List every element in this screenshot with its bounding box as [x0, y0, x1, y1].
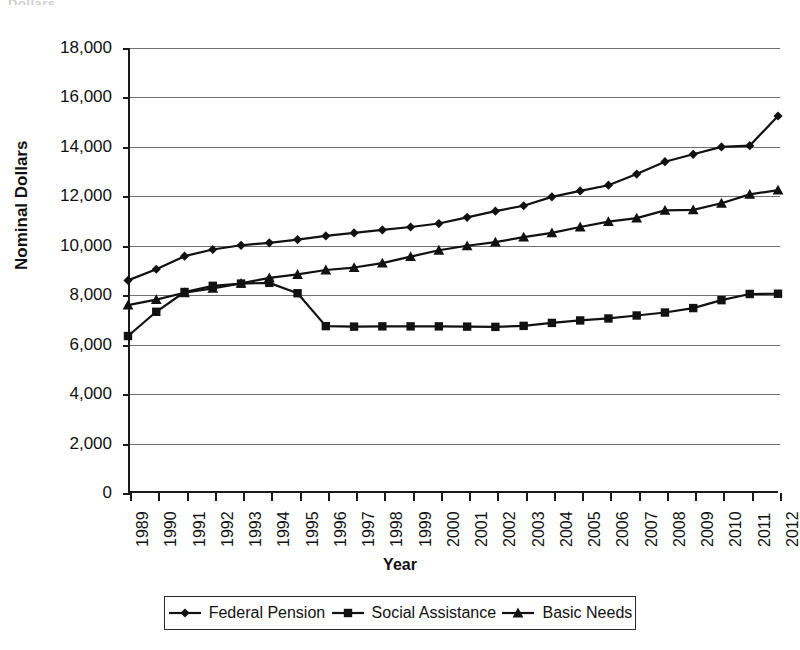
y-gridline — [130, 196, 780, 197]
x-axis-tick — [413, 493, 415, 501]
x-axis-tick — [158, 493, 160, 501]
x-axis-tick-label: 2004 — [558, 511, 576, 547]
y-axis-tick-label: 8,000 — [0, 285, 112, 305]
x-axis-tick — [695, 493, 697, 501]
x-axis-tick — [300, 493, 302, 501]
chart-page: Dollars Nominal Dollars Year Federal Pen… — [0, 0, 800, 650]
x-axis-tick — [582, 493, 584, 501]
x-axis-tick-label: 2009 — [699, 511, 717, 547]
x-axis-tick-label: 2007 — [643, 511, 661, 547]
x-axis-tick-label: 1994 — [275, 511, 293, 547]
x-axis-tick — [469, 493, 471, 501]
plot-area — [128, 48, 778, 493]
x-axis-tick-label: 1997 — [360, 511, 378, 547]
x-axis-tick — [639, 493, 641, 501]
y-axis-tick-label: 14,000 — [0, 137, 112, 157]
x-axis-tick-label: 1989 — [134, 511, 152, 547]
y-axis-tick-label: 10,000 — [0, 236, 112, 256]
y-gridline — [130, 147, 780, 148]
y-axis-tick — [123, 97, 130, 99]
x-axis-tick-label: 2001 — [473, 511, 491, 547]
legend-label: Federal Pension — [209, 604, 326, 622]
legend-key-diamond-icon — [168, 606, 202, 620]
y-axis-tick-label: 18,000 — [0, 38, 112, 58]
square-marker — [343, 609, 351, 617]
y-gridline — [130, 48, 780, 49]
legend-label: Basic Needs — [542, 604, 632, 622]
legend-key-square-icon — [331, 606, 365, 620]
legend-label: Social Assistance — [372, 604, 497, 622]
chart-legend: Federal PensionSocial AssistanceBasic Ne… — [164, 596, 636, 630]
cropped-page-header: Dollars — [8, 0, 56, 5]
x-axis-tick-label: 1993 — [247, 511, 265, 547]
x-axis-tick — [271, 493, 273, 501]
x-axis-tick-label: 1999 — [417, 511, 435, 547]
x-axis-tick — [328, 493, 330, 501]
x-axis-tick — [780, 493, 782, 501]
y-gridline — [130, 444, 780, 445]
x-axis-tick-label: 2002 — [501, 511, 519, 547]
x-axis-tick — [215, 493, 217, 501]
x-axis-tick-label: 2006 — [614, 511, 632, 547]
x-axis-tick-label: 1998 — [388, 511, 406, 547]
y-axis-tick-label: 4,000 — [0, 384, 112, 404]
x-axis-tick — [356, 493, 358, 501]
x-axis-tick — [667, 493, 669, 501]
x-axis-tick — [187, 493, 189, 501]
y-gridline — [130, 246, 780, 247]
y-axis-tick — [123, 246, 130, 248]
x-axis-tick-label: 1996 — [332, 511, 350, 547]
y-axis-tick-label: 16,000 — [0, 87, 112, 107]
y-axis-tick — [123, 493, 130, 495]
x-axis-title: Year — [0, 556, 800, 574]
x-axis-tick — [441, 493, 443, 501]
y-gridline — [130, 97, 780, 98]
y-axis-tick — [123, 394, 130, 396]
legend-key-triangle-icon — [501, 606, 535, 620]
y-axis-tick — [123, 147, 130, 149]
y-axis-tick-label: 12,000 — [0, 186, 112, 206]
x-axis-tick-label: 2005 — [586, 511, 604, 547]
x-axis-tick-label: 1995 — [304, 511, 322, 547]
y-axis-tick — [123, 196, 130, 198]
x-axis-tick-label: 2012 — [784, 511, 800, 547]
y-axis-tick — [123, 295, 130, 297]
x-axis-tick — [723, 493, 725, 501]
x-axis-tick — [497, 493, 499, 501]
y-axis-tick-label: 6,000 — [0, 335, 112, 355]
x-axis-tick-label: 1990 — [162, 511, 180, 547]
x-axis-tick — [243, 493, 245, 501]
x-axis-tick-label: 1991 — [191, 511, 209, 547]
x-axis-tick — [752, 493, 754, 501]
x-axis-tick — [526, 493, 528, 501]
x-axis-tick-label: 2000 — [445, 511, 463, 547]
diamond-marker — [180, 608, 189, 617]
y-axis-tick — [123, 345, 130, 347]
x-axis-tick-label: 2008 — [671, 511, 689, 547]
y-axis-tick-label: 0 — [0, 483, 112, 503]
y-gridline — [130, 295, 780, 296]
legend-item-federal-pension[interactable]: Federal Pension — [168, 604, 326, 622]
y-axis-tick-label: 2,000 — [0, 434, 112, 454]
x-axis-tick — [130, 493, 132, 501]
y-axis-tick — [123, 48, 130, 50]
y-gridline — [130, 345, 780, 346]
legend-item-social-assistance[interactable]: Social Assistance — [331, 604, 497, 622]
x-axis-tick-label: 2010 — [727, 511, 745, 547]
x-axis-tick — [554, 493, 556, 501]
y-gridline — [130, 394, 780, 395]
x-axis-tick-label: 2003 — [530, 511, 548, 547]
x-axis-tick — [610, 493, 612, 501]
legend-item-basic-needs[interactable]: Basic Needs — [501, 604, 632, 622]
x-axis-tick — [384, 493, 386, 501]
x-axis-tick-label: 2011 — [756, 513, 774, 547]
x-axis-tick-label: 1992 — [219, 511, 237, 547]
y-axis-tick — [123, 444, 130, 446]
